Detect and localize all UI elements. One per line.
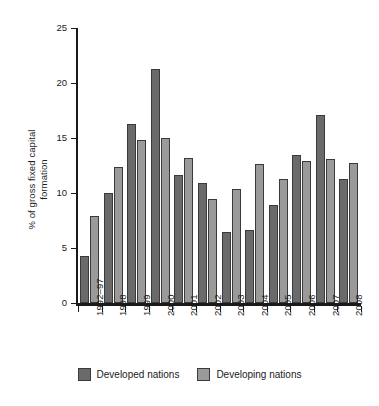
bar — [127, 124, 136, 303]
bar — [316, 115, 325, 303]
x-axis-ticks: 1992–97199819992000200120022003200420052… — [78, 306, 361, 376]
x-axis-tick-label: 2006 — [306, 294, 317, 316]
x-axis-tick-label: 1999 — [141, 294, 152, 316]
x-axis-tick-label: 2002 — [212, 294, 223, 316]
bar — [302, 161, 311, 303]
y-axis-tick-mark — [71, 248, 76, 249]
x-axis-tick-mark — [220, 306, 221, 312]
bar-group — [149, 28, 173, 303]
bar-group — [125, 28, 149, 303]
plot-area: 0510152025 1992–971998199920002001200220… — [76, 28, 361, 303]
x-axis-tick-label: 2000 — [165, 294, 176, 316]
x-axis-tick-label: 1992–97 — [94, 278, 105, 316]
y-axis-tick-label: 25 — [7, 22, 67, 33]
bar-group — [172, 28, 196, 303]
bar — [339, 179, 348, 303]
y-axis-tick-mark — [71, 28, 76, 29]
legend-entry: Developing nations — [197, 368, 301, 381]
x-axis-tick-mark — [149, 306, 150, 312]
bar — [349, 163, 358, 303]
bar — [279, 179, 288, 303]
bar — [114, 167, 123, 303]
legend-entry: Developed nations — [78, 368, 180, 381]
bar-group — [314, 28, 338, 303]
y-axis-tick-label: 10 — [7, 187, 67, 198]
bar — [326, 159, 335, 303]
bar — [222, 232, 231, 304]
bar — [208, 199, 217, 304]
bar — [151, 69, 160, 303]
x-axis-tick-label: 2004 — [259, 294, 270, 316]
bar-group — [243, 28, 267, 303]
y-axis-tick-label: 0 — [7, 297, 67, 308]
bar — [269, 205, 278, 303]
y-axis-tick-label: 15 — [7, 132, 67, 143]
x-axis-tick-mark — [125, 306, 126, 312]
y-axis-tick-label: 20 — [7, 77, 67, 88]
bar-group — [102, 28, 126, 303]
bar-group — [220, 28, 244, 303]
x-axis-tick-mark — [196, 306, 197, 312]
x-axis-tick-label: 2003 — [235, 294, 246, 316]
bar — [80, 256, 89, 303]
x-axis-tick-label: 2001 — [188, 294, 199, 316]
x-axis-tick-label: 2005 — [282, 294, 293, 316]
bar — [255, 164, 264, 303]
x-axis-tick-mark — [267, 306, 268, 312]
y-axis-tick-label: 5 — [7, 242, 67, 253]
chart-legend: Developed nationsDeveloping nations — [0, 368, 379, 381]
x-axis-tick-mark — [361, 306, 362, 312]
bar — [198, 183, 207, 303]
bar-group — [337, 28, 361, 303]
y-axis-tick-mark — [71, 83, 76, 84]
y-axis-tick-mark — [71, 303, 76, 304]
x-axis-tick-mark — [337, 306, 338, 312]
legend-label: Developed nations — [97, 369, 180, 380]
bar — [232, 189, 241, 303]
y-axis-tick-mark — [71, 193, 76, 194]
bar — [174, 175, 183, 303]
legend-swatch — [197, 368, 210, 381]
bar — [184, 158, 193, 303]
x-axis-tick-mark — [243, 306, 244, 312]
bar — [292, 155, 301, 304]
bar — [161, 138, 170, 303]
bar — [137, 140, 146, 303]
x-axis-tick-mark — [78, 306, 79, 312]
x-axis-tick-mark — [290, 306, 291, 312]
bar-group — [78, 28, 102, 303]
legend-swatch — [78, 368, 91, 381]
x-axis-tick-label: 1998 — [117, 294, 128, 316]
bar-group — [196, 28, 220, 303]
bar-groups — [78, 28, 361, 303]
x-axis-tick-label: 2008 — [353, 294, 364, 316]
bar — [245, 230, 254, 303]
legend-label: Developing nations — [216, 369, 301, 380]
bar-chart-figure: % of gross fixed capital formation 05101… — [0, 0, 379, 406]
x-axis-tick-mark — [102, 306, 103, 312]
y-axis-tick-mark — [71, 138, 76, 139]
bar-group — [290, 28, 314, 303]
bar-group — [267, 28, 291, 303]
x-axis-tick-mark — [314, 306, 315, 312]
x-axis-tick-label: 2007 — [330, 294, 341, 316]
x-axis-tick-mark — [172, 306, 173, 312]
